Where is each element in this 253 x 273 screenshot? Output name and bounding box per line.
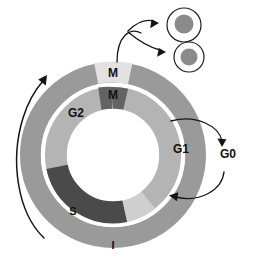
- daughter-cell-top-nucleus: [175, 15, 194, 34]
- label-m-inner: M: [108, 88, 118, 102]
- label-g1: G1: [173, 142, 189, 156]
- label-i: I: [111, 239, 114, 251]
- g0-exit-arrowhead: [217, 139, 226, 147]
- daughter-cell-top: [167, 8, 201, 42]
- inner-ring-hole: [67, 109, 158, 200]
- cell-cycle-figure: M M G2 G1 S I G0: [0, 0, 253, 273]
- label-s: S: [69, 205, 76, 217]
- label-g2: G2: [68, 106, 84, 120]
- daughter-cell-bottom-nucleus: [181, 49, 198, 66]
- inner-ring-transition-segment: [125, 200, 148, 211]
- division-fork-arrow: [117, 19, 166, 62]
- label-g0: G0: [220, 147, 236, 161]
- label-m-outer: M: [108, 66, 118, 80]
- cell-cycle-svg: M M G2 G1 S I G0: [0, 0, 253, 273]
- division-arrowhead-top: [150, 19, 159, 28]
- daughter-cell-bottom: [174, 42, 204, 72]
